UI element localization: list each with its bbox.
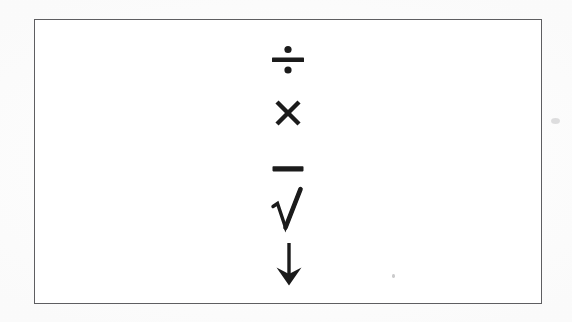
symbol-stack xyxy=(35,20,541,303)
down-arrow-icon xyxy=(272,241,306,287)
multiplication-sign-icon xyxy=(273,98,303,128)
scan-smudge-outside xyxy=(551,118,560,124)
square-root-icon xyxy=(270,186,308,234)
division-sign-icon xyxy=(270,43,306,77)
symbol-frame-border xyxy=(34,19,542,304)
minus-sign-icon xyxy=(272,164,304,174)
scanned-page xyxy=(0,0,572,322)
